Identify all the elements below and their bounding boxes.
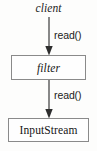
edge-label-read-second: read() [54,89,81,101]
edge-label-read-first: read() [54,29,81,41]
arrow-client-to-filter [44,17,54,56]
node-box-filter: filter [11,55,86,80]
node-label-client: client [0,2,97,15]
diagram-canvas: client read() filter read() InputStream [0,0,97,151]
node-box-inputstream: InputStream [8,118,89,142]
node-label-inputstream: InputStream [20,124,78,136]
arrow-filter-to-inputstream [44,80,54,119]
node-label-filter: filter [37,62,60,74]
